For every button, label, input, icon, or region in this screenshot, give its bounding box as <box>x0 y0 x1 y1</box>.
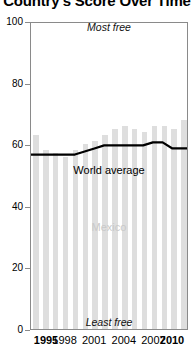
x-tick-label: 1998 <box>52 334 76 346</box>
least-free-annotation: Least free <box>31 316 187 328</box>
y-tick-mark <box>25 330 30 331</box>
chart-title: Country's Score Over Time <box>0 0 194 8</box>
most-free-annotation: Most free <box>31 22 187 33</box>
chart-container: Country's Score Over Time 020406080100 M… <box>0 0 194 350</box>
y-tick-label: 100 <box>0 17 23 27</box>
y-tick-label: 80 <box>0 79 23 89</box>
y-tick-label: 60 <box>0 140 23 150</box>
world-average-polyline <box>31 142 187 154</box>
y-tick-label: 40 <box>0 202 23 212</box>
x-tick-label: 2004 <box>112 334 136 346</box>
world-average-annotation: World average <box>31 164 187 176</box>
x-tick-label: 2010 <box>160 334 184 346</box>
plot-area: Most free Mexico World average Least fre… <box>30 22 188 330</box>
x-axis: 199519982001200420072010 <box>0 334 194 350</box>
country-annotation: Mexico <box>31 221 187 233</box>
x-tick-label: 2001 <box>82 334 106 346</box>
line-series-world-average <box>31 23 187 329</box>
y-tick-label: 20 <box>0 263 23 273</box>
